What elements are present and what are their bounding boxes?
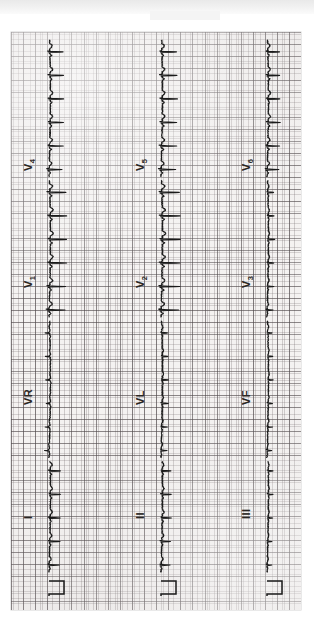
lead-label-v3: V3 [240,276,255,288]
lead-label-text: V [240,163,252,171]
lead-label-text: VF [240,390,252,405]
lead-label-text: V [240,280,252,288]
column-right-traces [11,32,301,610]
lead-label-text: VL [134,390,146,405]
lead-label-text: I [22,516,34,519]
lead-label-iii: III [240,509,252,519]
lead-label-vl: VL [134,390,146,405]
ecg-trace-v6 [265,40,280,176]
lead-label-subscript: 5 [140,159,149,164]
lead-label-text: V [134,163,146,171]
photo-top-band-notch [150,11,220,20]
lead-label-v6: V6 [240,159,255,171]
lead-label-ii: II [134,512,146,519]
ecg-photo: IVRV1V4IIVLV2V5IIIVFV3V6 [0,0,314,626]
lead-label-vf: VF [240,390,252,405]
lead-label-text: VR [22,389,34,405]
lead-label-subscript: 6 [246,159,255,164]
lead-label-v2: V2 [134,276,149,288]
calibration-pulse-iii [267,581,282,596]
lead-label-subscript: 2 [140,276,149,281]
lead-label-vr: VR [22,389,34,405]
lead-label-text: V [22,163,34,171]
lead-label-subscript: 4 [28,159,37,164]
lead-label-text: V [134,280,146,288]
ecg-paper: IVRV1V4IIVLV2V5IIIVFV3V6 [11,32,301,610]
lead-label-subscript: 1 [28,276,37,281]
lead-label-v1: V1 [22,276,37,288]
lead-label-text: III [240,509,252,519]
column-right [11,32,301,610]
lead-label-v4: V4 [22,159,37,171]
lead-label-v5: V5 [134,159,149,171]
ecg-trace-vf [266,321,273,457]
lead-label-i: I [22,516,34,519]
lead-label-subscript: 3 [246,276,255,281]
lead-label-text: II [134,512,146,519]
ecg-trace-iii [266,462,273,572]
lead-label-text: V [22,280,34,288]
ecg-trace-v3 [266,181,275,317]
